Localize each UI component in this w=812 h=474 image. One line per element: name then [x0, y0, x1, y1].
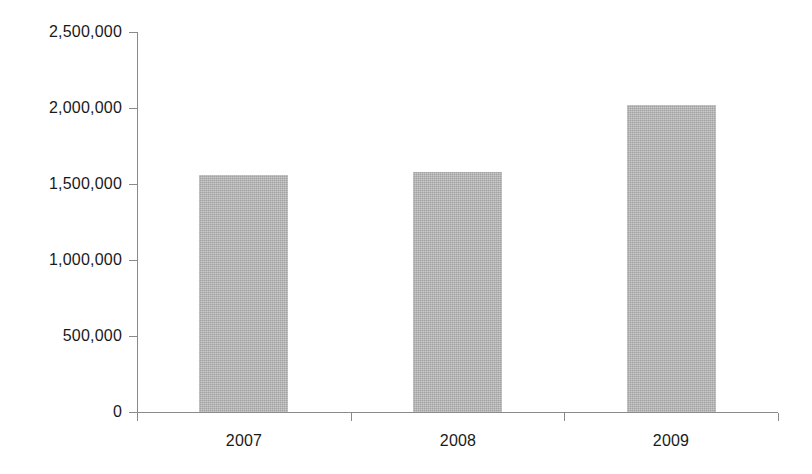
x-axis-line [137, 412, 778, 413]
y-axis-tick-label: 2,500,000 [49, 23, 122, 41]
x-axis-tick [564, 413, 565, 421]
x-axis-tick [137, 413, 138, 421]
x-axis-tick [351, 413, 352, 421]
y-axis-tick-label: 500,000 [63, 327, 122, 345]
y-axis-tick [129, 412, 137, 413]
y-axis-tick-label: 1,000,000 [49, 251, 122, 269]
x-axis-tick-label: 2008 [440, 432, 476, 450]
bar [199, 175, 288, 412]
y-axis-tick-label: 0 [113, 403, 122, 421]
y-axis-tick [129, 336, 137, 337]
y-axis-line [137, 32, 138, 413]
bar [413, 172, 502, 412]
x-axis-tick-label: 2009 [653, 432, 689, 450]
y-axis-tick-label: 1,500,000 [49, 175, 122, 193]
x-axis-tick-label: 2007 [226, 432, 262, 450]
y-axis-tick [129, 184, 137, 185]
y-axis-tick [129, 260, 137, 261]
y-axis-tick [129, 32, 137, 33]
y-axis-tick [129, 108, 137, 109]
x-axis-tick [778, 413, 779, 421]
bar [627, 105, 716, 412]
bar-chart: 0500,0001,000,0001,500,0002,000,0002,500… [0, 0, 812, 474]
y-axis-tick-label: 2,000,000 [49, 99, 122, 117]
